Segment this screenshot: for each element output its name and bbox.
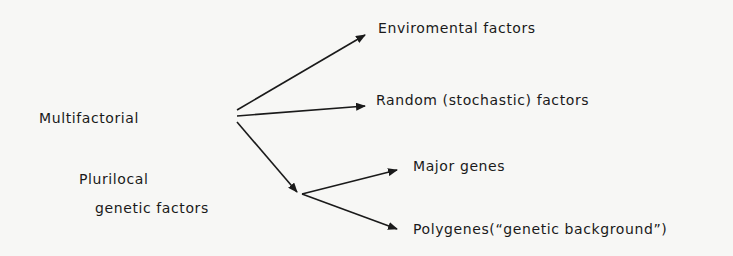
random-label: Random (stochastic) factors: [376, 92, 589, 108]
subgroup-label-line1: Plurilocal: [79, 171, 148, 187]
environmental-label: Enviromental factors: [378, 20, 536, 36]
root-label: Multifactorial: [39, 110, 139, 126]
arrow-to-polygenes: [302, 194, 397, 229]
arrow-to-genetic-split: [237, 122, 297, 192]
arrow-layer: [0, 0, 733, 256]
major-genes-label: Major genes: [413, 158, 505, 174]
arrow-to-environmental: [237, 35, 365, 110]
subgroup-label-line2: genetic factors: [95, 200, 209, 216]
polygenes-label: Polygenes(“genetic background”): [413, 221, 667, 237]
arrow-to-major-genes: [302, 170, 397, 194]
arrow-to-random: [237, 106, 365, 116]
